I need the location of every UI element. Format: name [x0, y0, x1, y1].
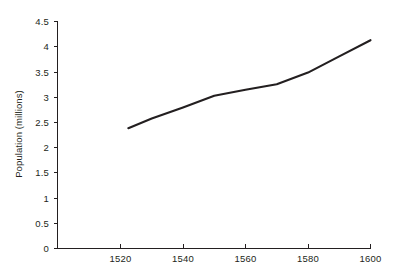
x-tick-label: 1600: [360, 253, 382, 264]
y-tick-label: 4.5: [35, 16, 49, 27]
population-line-chart: 0 0.5 1 1.5 2 2.5 3 3.5 4 4.5 1520 1540 …: [0, 0, 402, 276]
y-tick-label: 3.5: [35, 67, 49, 78]
y-tick-label: 4: [44, 41, 49, 52]
y-tick-label: 0.5: [35, 218, 49, 229]
y-tick-label: 1.5: [35, 167, 49, 178]
y-axis-title: Population (millions): [13, 90, 24, 178]
x-tick-label: 1520: [110, 253, 132, 264]
axes-group: [58, 21, 371, 249]
x-tick-label: 1580: [297, 253, 319, 264]
x-tick-label: 1540: [172, 253, 194, 264]
y-tick-label: 2: [44, 142, 49, 153]
y-tick-label: 2.5: [35, 117, 49, 128]
x-tick-label: 1560: [235, 253, 257, 264]
x-axis-ticks: [121, 244, 371, 249]
y-tick-label: 1: [44, 193, 49, 204]
y-axis-ticks: [54, 21, 58, 249]
population-series-line: [128, 40, 370, 128]
chart-canvas: 0 0.5 1 1.5 2 2.5 3 3.5 4 4.5 1520 1540 …: [0, 0, 402, 276]
y-tick-label: 3: [44, 92, 49, 103]
y-axis-tick-labels: 0 0.5 1 1.5 2 2.5 3 3.5 4 4.5: [35, 16, 49, 255]
y-tick-label: 0: [44, 243, 49, 254]
x-axis-tick-labels: 1520 1540 1560 1580 1600: [110, 253, 382, 264]
